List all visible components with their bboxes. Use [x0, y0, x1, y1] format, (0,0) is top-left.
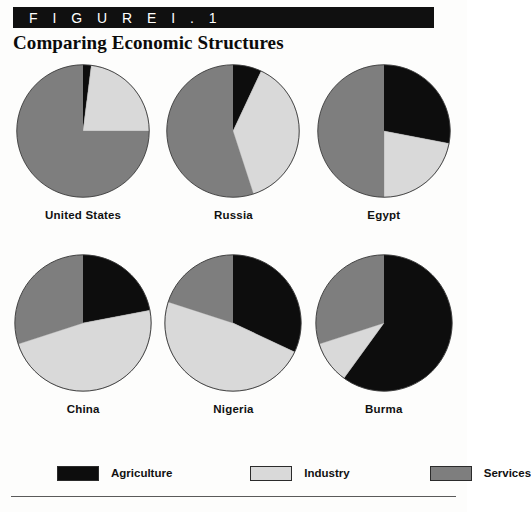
pie-label: China: [67, 403, 100, 415]
page-title: Comparing Economic Structures: [13, 32, 284, 54]
pie-cell-egypt: Egypt: [309, 62, 459, 252]
pie-cell-burma: Burma: [309, 252, 459, 442]
pie-chart-china: [12, 252, 154, 394]
figure-badge: F I G U R E I . 1: [13, 7, 434, 28]
industry-swatch-icon: [250, 466, 292, 481]
pie-slice-industry: [83, 65, 149, 131]
legend-item-services: Services: [430, 466, 531, 481]
pie-slice-agriculture: [384, 65, 450, 144]
legend-item-industry: Industry: [250, 466, 349, 481]
pie-cell-united-states: United States: [8, 62, 158, 252]
pie-cell-russia: Russia: [158, 62, 308, 252]
pie-svg: [14, 62, 152, 200]
pie-label: Egypt: [367, 209, 400, 221]
pie-cell-nigeria: Nigeria: [158, 252, 308, 442]
pie-label: Burma: [365, 403, 402, 415]
pie-cell-china: China: [8, 252, 158, 442]
services-swatch-icon: [430, 466, 472, 481]
pie-svg: [313, 252, 455, 394]
pie-label: United States: [45, 209, 121, 221]
pie-chart-russia: [164, 62, 302, 200]
pie-chart-united-states: [14, 62, 152, 200]
pie-svg: [162, 252, 304, 394]
legend-label-agriculture: Agriculture: [111, 467, 172, 479]
chart-legend: Agriculture Industry Services: [57, 464, 437, 482]
pie-svg: [164, 62, 302, 200]
pie-chart-grid: United StatesRussiaEgyptChinaNigeriaBurm…: [8, 62, 459, 442]
agriculture-swatch-icon: [57, 466, 99, 481]
pie-svg: [12, 252, 154, 394]
pie-slice-services: [318, 65, 384, 197]
pie-label: Russia: [214, 209, 253, 221]
figure-badge-label: F I G U R E I . 1: [13, 10, 222, 26]
legend-label-industry: Industry: [304, 467, 349, 479]
pie-chart-burma: [313, 252, 455, 394]
legend-item-agriculture: Agriculture: [57, 466, 172, 481]
pie-svg: [315, 62, 453, 200]
pie-chart-egypt: [315, 62, 453, 200]
pie-label: Nigeria: [213, 403, 253, 415]
pie-chart-nigeria: [162, 252, 304, 394]
legend-label-services: Services: [484, 467, 531, 479]
bottom-divider: [11, 496, 456, 497]
